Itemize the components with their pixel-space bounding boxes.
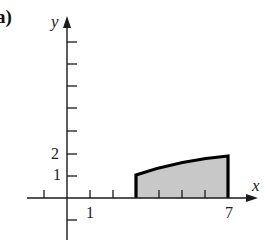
y-axis-label: y [51, 12, 59, 32]
y-tick-label-1: 1 [53, 166, 61, 184]
y-axis-arrow-icon [63, 16, 71, 28]
x-axis-label: x [252, 176, 260, 196]
y-tick-label-2: 2 [51, 145, 59, 163]
panel-label: a) [0, 6, 12, 28]
figure: a) y x 2 1 1 7 [0, 0, 265, 243]
x-tick-label-1: 1 [86, 204, 94, 222]
x-tick-label-7: 7 [225, 204, 233, 222]
